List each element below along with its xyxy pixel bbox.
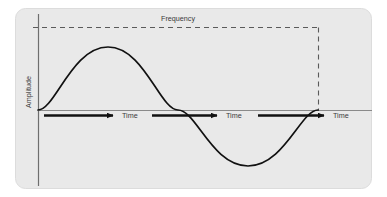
time-label-2: Time — [226, 111, 242, 120]
time-label-1: Time — [122, 111, 138, 120]
figure-root: Time Time Time Frequency Amplitude — [0, 0, 387, 197]
sine-wave-diagram: Time Time Time Frequency Amplitude — [0, 0, 387, 197]
diagram-panel — [16, 9, 372, 189]
frequency-label: Frequency — [161, 14, 195, 23]
amplitude-label: Amplitude — [24, 76, 33, 108]
time-label-3: Time — [333, 111, 349, 120]
